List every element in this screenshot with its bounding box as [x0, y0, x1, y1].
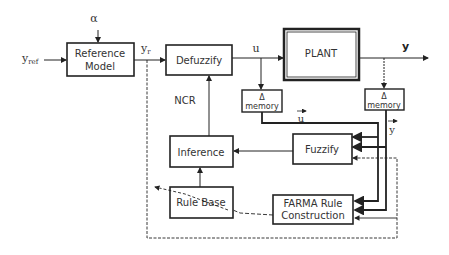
farma-control-diagram: α yref Reference Model yr Defuzzify u PL… [0, 0, 449, 255]
ncr-label: NCR [174, 95, 195, 106]
yr-label: yr [140, 42, 151, 56]
rule-base-block: Rule Base [170, 187, 233, 218]
u-label: u [252, 42, 259, 55]
defuzzify-block: Defuzzify [166, 45, 232, 75]
svg-text:Model: Model [85, 61, 115, 72]
yref-label: yref [21, 52, 40, 66]
fuzzify-block: Fuzzify [293, 134, 352, 164]
svg-text:Defuzzify: Defuzzify [176, 55, 222, 66]
svg-text:Construction: Construction [281, 210, 345, 221]
svg-text:Inference: Inference [178, 147, 225, 158]
plant-block: PLANT [284, 29, 359, 80]
y-vector-label: y [388, 124, 395, 135]
svg-text:memory: memory [245, 102, 279, 111]
svg-text:Δ: Δ [381, 92, 387, 101]
svg-text:Reference: Reference [75, 48, 125, 59]
delta-memory-u-block: Δ memory [242, 90, 282, 112]
inference-block: Inference [170, 136, 233, 167]
svg-text:PLANT: PLANT [305, 48, 338, 59]
delta-memory-y-block: Δ memory [365, 89, 404, 110]
svg-text:FARMA Rule: FARMA Rule [283, 198, 342, 209]
svg-text:memory: memory [367, 101, 401, 110]
alpha-label: α [90, 12, 98, 25]
farma-rule-construction-block: FARMA Rule Construction [273, 195, 353, 224]
reference-model-block: Reference Model [67, 43, 134, 76]
svg-text:Fuzzify: Fuzzify [305, 144, 339, 155]
y-label: y [402, 40, 409, 53]
svg-text:Δ: Δ [259, 93, 265, 102]
